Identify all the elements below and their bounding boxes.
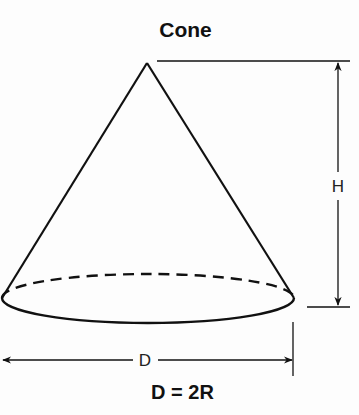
cone-right-side — [147, 63, 294, 298]
cone-base-front — [2, 298, 294, 323]
diameter-formula: D = 2R — [0, 381, 359, 404]
cone-figure: H D — [0, 0, 359, 415]
cone-diagram: Cone H D D = 2R — [0, 0, 359, 415]
height-label: H — [332, 177, 344, 196]
cone-left-side — [2, 63, 147, 298]
diameter-label: D — [139, 351, 151, 370]
cone-base-back-dashed — [2, 274, 294, 298]
